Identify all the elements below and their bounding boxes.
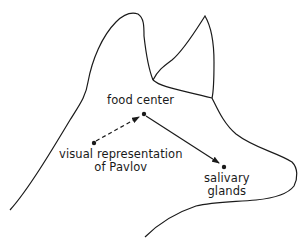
label-food-center: food center <box>107 94 174 107</box>
label-food-center-text: food center <box>107 93 174 107</box>
label-salivary-line2: glands <box>204 185 250 198</box>
label-visual-representation: visual representation of Pavlov <box>59 148 183 174</box>
dashed-arrow-visual-to-food <box>96 117 139 141</box>
dog-head-left-outline <box>10 13 153 210</box>
diagram-canvas <box>0 0 308 247</box>
label-salivary-glands: salivary glands <box>204 172 250 198</box>
node-dot-salivary-glands <box>222 165 226 169</box>
label-visual-line2: of Pavlov <box>59 161 183 174</box>
node-dot-food-center <box>142 112 146 116</box>
node-dot-visual-representation <box>92 141 96 145</box>
